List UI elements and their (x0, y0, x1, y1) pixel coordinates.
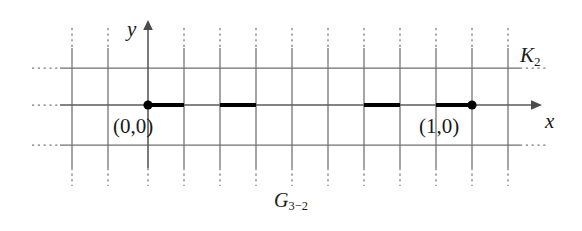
point-origin-marker (143, 100, 152, 109)
figure-caption-subscript: 3−2 (288, 199, 307, 213)
set-label-k2-base: K (520, 43, 534, 67)
point-one-marker (467, 100, 476, 109)
figure-caption-g32: G3−2 (274, 189, 308, 214)
point-origin-label: (0,0) (113, 114, 153, 139)
y-axis-label: y (127, 17, 136, 42)
set-label-k2: K2 (520, 43, 541, 70)
point-one-label: (1,0) (419, 114, 459, 139)
set-label-k2-subscript: 2 (534, 54, 541, 69)
figure-caption-base: G (274, 189, 288, 211)
x-axis-label: x (545, 109, 554, 134)
